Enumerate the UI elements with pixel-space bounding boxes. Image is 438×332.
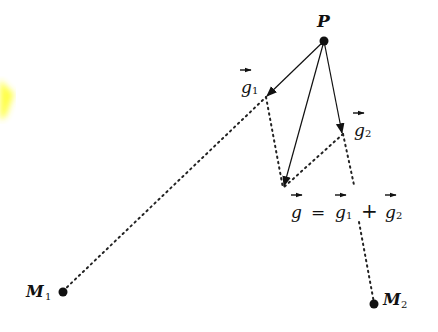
- svg-text:+: +: [361, 199, 378, 223]
- point-m2: [370, 300, 379, 309]
- point-p: [320, 37, 329, 46]
- dotted-line-g2-to-m2-upper: [343, 134, 354, 185]
- svg-text:2: 2: [401, 299, 407, 310]
- svg-text:g: g: [354, 120, 365, 140]
- svg-text:g: g: [335, 202, 346, 222]
- svg-text:2: 2: [365, 128, 371, 139]
- dotted-line-g2-to-m2-lower: [359, 222, 374, 303]
- svg-text:g: g: [291, 202, 302, 222]
- dotted-line-g2-to-g: [283, 134, 343, 188]
- svg-text:1: 1: [45, 291, 51, 302]
- svg-text:M: M: [25, 282, 45, 301]
- label-g1: g 1: [240, 70, 258, 97]
- svg-text:g: g: [241, 77, 252, 97]
- svg-text:g: g: [385, 202, 396, 222]
- svg-text:1: 1: [252, 85, 258, 96]
- diagram-canvas: P M 1 M 2 g 1 g 2 g = g 1 + g 2: [0, 0, 438, 332]
- dotted-line-g1-to-g: [266, 97, 283, 188]
- dotted-line-m1-to-g1: [63, 97, 266, 291]
- label-m1: M 1: [25, 282, 51, 302]
- equation-g-sum: g = g 1 + g 2: [291, 195, 402, 223]
- svg-text:M: M: [382, 290, 402, 309]
- vector-g1-arrow: [267, 41, 324, 96]
- label-p: P: [316, 11, 331, 31]
- vector-g2-arrow: [324, 41, 342, 133]
- svg-text:=: =: [311, 202, 325, 222]
- vector-g-arrow: [284, 41, 324, 186]
- highlight-mark: [0, 80, 14, 120]
- svg-text:2: 2: [396, 210, 402, 221]
- svg-text:1: 1: [346, 210, 352, 221]
- label-g2: g 2: [353, 113, 371, 140]
- point-m1: [59, 288, 68, 297]
- label-m2: M 2: [382, 290, 407, 310]
